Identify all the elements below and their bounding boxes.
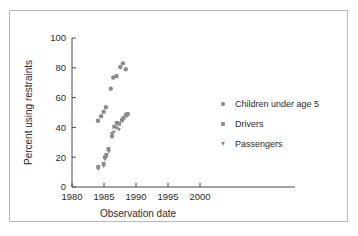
data-point [96, 119, 100, 123]
x-tick-label: 1995 [157, 191, 178, 202]
x-tick-label: 1990 [125, 191, 146, 202]
data-point [109, 86, 113, 90]
x-tick-label: 1980 [61, 191, 82, 202]
y-tick-label: 60 [55, 92, 66, 103]
y-tick-label: 80 [55, 62, 66, 73]
y-tick-label: 20 [55, 152, 66, 163]
data-point [121, 61, 125, 65]
data-point [124, 67, 128, 71]
data-point [117, 122, 121, 126]
y-tick-label: 40 [55, 122, 66, 133]
data-point [114, 74, 118, 78]
x-tick-label: 1985 [93, 191, 114, 202]
legend-marker-square [221, 122, 225, 126]
y-tick-label: 100 [50, 32, 66, 43]
x-axis-title: Observation date [100, 208, 177, 219]
data-point [101, 110, 105, 114]
series-passengers [96, 113, 130, 171]
legend-marker-circle [221, 102, 225, 106]
data-point [99, 114, 103, 118]
data-point [96, 167, 100, 171]
axis-ticks [72, 38, 200, 187]
figure-frame: 02040608010019801985199019952000 Childre… [9, 10, 348, 222]
data-point [117, 128, 121, 132]
data-point [104, 105, 108, 109]
legend-label: Children under age 5 [235, 99, 319, 109]
data-point [118, 65, 122, 69]
axis-tick-labels: 02040608010019801985199019952000 [50, 32, 210, 202]
series-drivers [96, 112, 129, 169]
scatter-plot: 02040608010019801985199019952000 Childre… [10, 11, 347, 221]
data-points [96, 61, 130, 171]
data-point [102, 164, 106, 168]
chart-legend: Children under age 5DriversPassengers [221, 99, 319, 149]
legend-marker-triangle-down [221, 142, 225, 146]
y-axis-title: Percent using restraints [23, 60, 34, 165]
legend-label: Passengers [235, 139, 283, 149]
x-tick-label: 2000 [189, 191, 210, 202]
legend-label: Drivers [235, 119, 264, 129]
series-children-under-age-5 [96, 61, 128, 123]
